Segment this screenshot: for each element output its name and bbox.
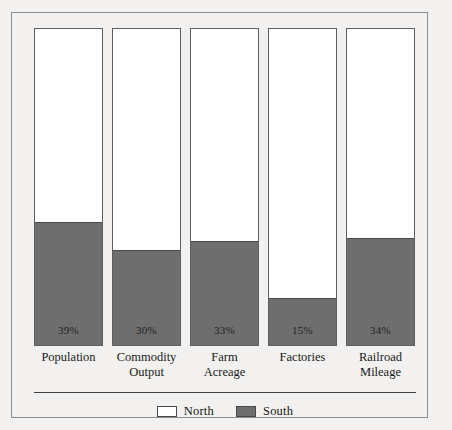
- chart-legend: North South: [34, 401, 416, 421]
- bar-segment-south[interactable]: 30%: [113, 250, 180, 345]
- category-label-line1: Population: [41, 350, 95, 364]
- chart-figure: 39% Population 30% Commodity Output: [0, 0, 452, 430]
- category-label-farm-acreage: Farm Acreage: [181, 350, 268, 379]
- plot-area: 39% Population 30% Commodity Output: [34, 28, 416, 346]
- legend-item-south[interactable]: South: [236, 404, 293, 419]
- bar-value-label: 39%: [35, 324, 102, 336]
- bar-segment-north[interactable]: [347, 29, 414, 238]
- category-label-line1: Farm: [211, 350, 237, 364]
- stacked-bar[interactable]: 15%: [268, 28, 337, 346]
- bar-group-commodity-output[interactable]: 30% Commodity Output: [112, 28, 181, 346]
- category-label-factories: Factories: [259, 350, 346, 365]
- category-label-line2: Output: [103, 365, 190, 380]
- bar-value-label: 34%: [347, 324, 414, 336]
- bar-segment-north[interactable]: [113, 29, 180, 250]
- legend-separator-rule: [34, 392, 416, 393]
- legend-label-north: North: [184, 404, 214, 419]
- legend-item-north[interactable]: North: [157, 404, 214, 419]
- bar-segment-north[interactable]: [269, 29, 336, 298]
- bar-group-farm-acreage[interactable]: 33% Farm Acreage: [190, 28, 259, 346]
- stacked-bar[interactable]: 34%: [346, 28, 415, 346]
- category-label-railroad-mileage: Railroad Mileage: [337, 350, 424, 379]
- legend-swatch-south: [236, 406, 256, 417]
- stacked-bar[interactable]: 33%: [190, 28, 259, 346]
- bar-segment-south[interactable]: 33%: [191, 241, 258, 345]
- category-label-line1: Factories: [280, 350, 326, 364]
- category-label-line2: Acreage: [181, 365, 268, 380]
- bar-group-population[interactable]: 39% Population: [34, 28, 103, 346]
- category-label-line1: Commodity: [117, 350, 177, 364]
- bar-segment-north[interactable]: [191, 29, 258, 241]
- stacked-bar[interactable]: 39%: [34, 28, 103, 346]
- category-label-line2: Mileage: [337, 365, 424, 380]
- bar-value-label: 15%: [269, 324, 336, 336]
- stacked-bar[interactable]: 30%: [112, 28, 181, 346]
- bar-group-railroad-mileage[interactable]: 34% Railroad Mileage: [346, 28, 415, 346]
- category-label-commodity-output: Commodity Output: [103, 350, 190, 379]
- bar-segment-north[interactable]: [35, 29, 102, 222]
- legend-label-south: South: [263, 404, 293, 419]
- bar-value-label: 30%: [113, 324, 180, 336]
- bar-segment-south[interactable]: 34%: [347, 238, 414, 345]
- legend-swatch-north: [157, 406, 177, 417]
- bar-segment-south[interactable]: 39%: [35, 222, 102, 345]
- category-label-line1: Railroad: [359, 350, 402, 364]
- category-label-population: Population: [25, 350, 112, 365]
- bar-segment-south[interactable]: 15%: [269, 298, 336, 345]
- bar-group-factories[interactable]: 15% Factories: [268, 28, 337, 346]
- bar-value-label: 33%: [191, 324, 258, 336]
